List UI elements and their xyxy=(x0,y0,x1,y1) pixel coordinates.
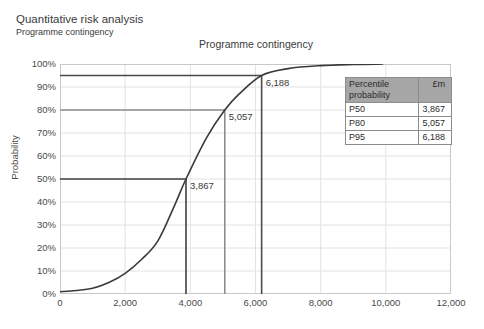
data-label-5057: 5,057 xyxy=(229,111,253,122)
y-tick-label: 20% xyxy=(4,243,56,253)
y-tick-label: 80% xyxy=(4,105,56,115)
y-tick-label: 10% xyxy=(4,266,56,276)
data-label-6188: 6,188 xyxy=(266,77,290,88)
y-tick-label: 90% xyxy=(4,82,56,92)
legend-header-row: Percentile probability £m xyxy=(346,78,452,103)
legend-table-head: Percentile probability £m xyxy=(346,78,452,103)
data-label-3867: 3,867 xyxy=(190,180,214,191)
y-tick-label: 40% xyxy=(4,197,56,207)
document-header: Quantitative risk analysis Programme con… xyxy=(16,12,143,38)
legend-cell-value: 3,867 xyxy=(419,103,452,117)
chart-title: Programme contingency xyxy=(0,38,484,50)
x-tick-label: 8,000 xyxy=(291,297,351,308)
legend-cell-value: 6,188 xyxy=(419,131,452,145)
percentile-legend-table: Percentile probability £m P503,867P805,0… xyxy=(345,77,452,145)
page-title: Quantitative risk analysis xyxy=(16,12,143,26)
x-tick-label: 2,000 xyxy=(95,297,155,308)
x-axis-ticks: 02,0004,0006,0008,00010,00012,000 xyxy=(60,297,451,311)
x-tick-label: 10,000 xyxy=(356,297,416,308)
legend-cell-percentile: P95 xyxy=(346,131,419,145)
table-row: P805,057 xyxy=(346,117,452,131)
page-subtitle: Programme contingency xyxy=(16,26,143,38)
s-curve-line xyxy=(60,64,383,292)
y-tick-label: 30% xyxy=(4,220,56,230)
percentile-marker-lines xyxy=(60,76,262,295)
legend-header-percentile: Percentile probability xyxy=(346,78,419,103)
x-tick-label: 0 xyxy=(30,297,90,308)
table-row: P503,867 xyxy=(346,103,452,117)
legend-table-body: P503,867P805,057P956,188 xyxy=(346,103,452,145)
legend-cell-percentile: P50 xyxy=(346,103,419,117)
legend-cell-percentile: P80 xyxy=(346,117,419,131)
y-axis-title: Probability xyxy=(9,118,20,198)
x-tick-label: 4,000 xyxy=(160,297,220,308)
x-tick-label: 6,000 xyxy=(226,297,286,308)
legend-cell-value: 5,057 xyxy=(419,117,452,131)
legend-header-value: £m xyxy=(419,78,452,103)
table-row: P956,188 xyxy=(346,131,452,145)
x-tick-label: 12,000 xyxy=(421,297,481,308)
y-tick-label: 100% xyxy=(4,59,56,69)
